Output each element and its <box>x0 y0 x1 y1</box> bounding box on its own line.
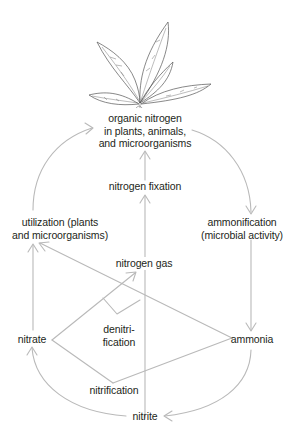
denitrification-label: denitri- fication <box>96 323 142 348</box>
organic-nitrogen-line3: and microorganisms <box>90 137 200 150</box>
denitrification-line2: fication <box>96 336 142 349</box>
arrow-ammonia-to-nitrite <box>165 350 251 416</box>
nitrogen-gas-label: nitrogen gas <box>104 257 184 270</box>
plant-sprout-icon <box>89 22 211 108</box>
ammonia-label: ammonia <box>228 333 276 346</box>
organic-nitrogen-line1: organic nitrogen <box>90 112 200 125</box>
nitrite-label: nitrite <box>126 410 164 423</box>
organic-nitrogen-label: organic nitrogen in plants, animals, and… <box>90 112 200 150</box>
ammonification-line2: (microbial activity) <box>192 229 286 242</box>
utilization-label: utilization (plants and microorganisms) <box>8 216 112 241</box>
denitrification-bracket <box>103 298 140 314</box>
ammonification-line1: ammonification <box>192 216 286 229</box>
arrow-utilization-to-organic <box>33 128 92 210</box>
ammonification-label: ammonification (microbial activity) <box>192 216 286 241</box>
denitrification-line1: denitri- <box>96 323 142 336</box>
utilization-line2: and microorganisms) <box>8 229 112 242</box>
nitrate-label: nitrate <box>12 333 52 346</box>
utilization-line1: utilization (plants <box>8 216 112 229</box>
nitrogen-fixation-label: nitrogen fixation <box>100 180 190 193</box>
organic-nitrogen-line2: in plants, animals, <box>90 125 200 138</box>
nitrification-label: nitrification <box>84 384 144 397</box>
arrow-organic-to-ammonification <box>192 130 251 212</box>
